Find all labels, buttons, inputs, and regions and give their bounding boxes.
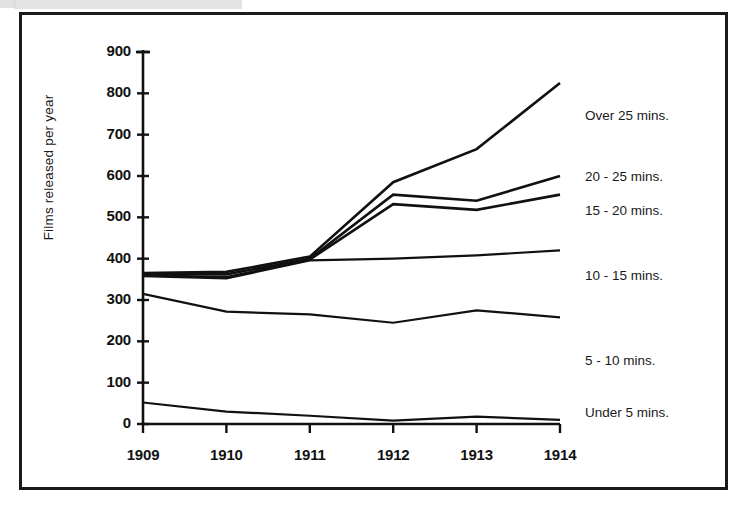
series-line-5-10-mins (143, 294, 560, 323)
plot-area: Films released per year 0100200300400500… (0, 0, 745, 511)
legend-entry: 20 - 25 mins. (585, 169, 663, 184)
legend-entry: 15 - 20 mins. (585, 203, 663, 218)
chart-figure: Films released per year 0100200300400500… (0, 0, 745, 511)
series-line-under-5-mins (143, 403, 560, 421)
series-line-over-25-mins (143, 83, 560, 273)
chart-lines-svg (0, 0, 745, 511)
legend-entry: 5 - 10 mins. (585, 353, 656, 368)
legend-entry: 10 - 15 mins. (585, 268, 663, 283)
series-line-15-20-mins (143, 195, 560, 278)
legend-entry: Over 25 mins. (585, 108, 669, 123)
legend-entry: Under 5 mins. (585, 405, 669, 420)
